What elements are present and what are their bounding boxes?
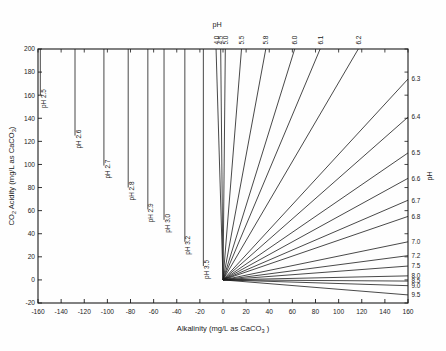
y-tick-label: 100 (24, 161, 35, 168)
top-axis-label: pH (213, 20, 222, 29)
y-tick-label: 140 (24, 115, 35, 122)
ph-label-6-3: 6.3 (412, 75, 421, 82)
x-tick-label: -100 (101, 308, 115, 315)
ph-label-6-1: 6.1 (317, 35, 324, 44)
ph-label-9-5: 9.5 (412, 291, 421, 298)
x-tick-label: 160 (402, 308, 413, 315)
ph-label-ph-2-5: pH 2.5 (40, 89, 48, 108)
ph-label-6-4: 6.4 (412, 113, 421, 120)
y-tick-label: 200 (24, 45, 35, 52)
y-axis-label: CO2 Acidity (mg/L as CaCO3) (7, 126, 17, 225)
ph-label-ph-2-6: pH 2.6 (75, 129, 83, 148)
ph-label-9-0: 9.0 (412, 282, 421, 289)
ph-label-ph-2-9: pH 2.9 (147, 203, 155, 222)
ph-label-7-0: 7.0 (412, 238, 421, 245)
x-tick-label: 100 (333, 308, 344, 315)
y-tick-label: 60 (28, 207, 36, 214)
y-tick-label: 80 (28, 184, 36, 191)
x-tick-label: 40 (266, 308, 274, 315)
x-tick-label: 60 (289, 308, 297, 315)
x-tick-label: -160 (31, 308, 45, 315)
ph-label-ph-3-2: pH 3.2 (184, 235, 192, 254)
ph-label-6-2: 6.2 (355, 35, 362, 44)
y-tick-label: 0 (31, 276, 35, 283)
ph-label-5-8: 5.8 (262, 35, 269, 44)
y-tick-label: 160 (24, 92, 35, 99)
co2-acidity-alkalinity-nomograph: -160-140-120-100-80-60-40-20020406080100… (0, 0, 446, 351)
x-tick-label: -20 (195, 308, 205, 315)
chart-figure: -160-140-120-100-80-60-40-20020406080100… (0, 0, 446, 351)
y-tick-label: -20 (25, 299, 35, 306)
ph-label-7-2: 7.2 (412, 252, 421, 259)
y-tick-label: 180 (24, 68, 35, 75)
x-tick-label: 140 (379, 308, 390, 315)
x-axis-label: Alkalinity (mg/L as CaCO3 ) (177, 324, 270, 334)
x-tick-label: 80 (312, 308, 320, 315)
ph-label-ph-3-0: pH 3.0 (164, 213, 172, 232)
y-tick-label: 20 (28, 253, 36, 260)
ph-label-7-5: 7.5 (412, 262, 421, 269)
ph-label-6-8: 6.8 (412, 213, 421, 220)
x-tick-label: -80 (126, 308, 136, 315)
x-tick-label: -60 (149, 308, 159, 315)
y-tick-label: 40 (28, 230, 36, 237)
ph-label-6-5: 6.5 (412, 149, 421, 156)
x-tick-label: -120 (78, 308, 92, 315)
ph-label-6-7: 6.7 (412, 197, 421, 204)
x-tick-label: -40 (172, 308, 182, 315)
x-tick-label: 120 (356, 308, 367, 315)
ph-label-ph-2-7: pH 2.7 (104, 159, 112, 178)
ph-label-6-6: 6.6 (412, 175, 421, 182)
ph-label-5-0: 5.0 (222, 35, 229, 44)
y-tick-label: 120 (24, 138, 35, 145)
ph-label-6-0: 6.0 (291, 35, 298, 44)
ph-label-ph-2-8: pH 2.8 (128, 181, 136, 200)
right-axis-label: pH (425, 171, 434, 180)
figure-background (0, 0, 446, 351)
ph-label-5-5: 5.5 (238, 35, 245, 44)
x-tick-label: -140 (55, 308, 69, 315)
x-tick-label: 0 (221, 308, 225, 315)
x-tick-label: 20 (242, 308, 250, 315)
ph-label-ph-3-5: pH 3.5 (203, 260, 211, 279)
